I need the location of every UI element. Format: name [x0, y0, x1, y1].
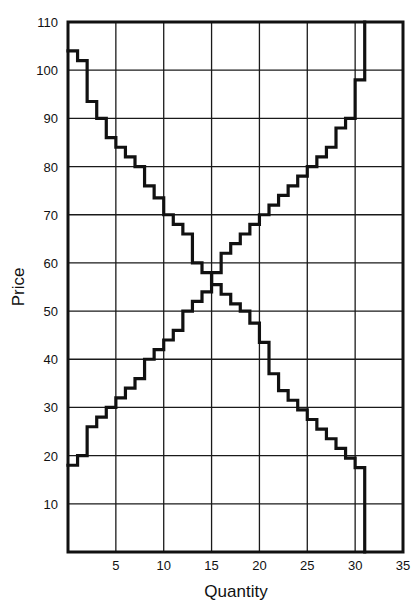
y-tick-label: 10: [44, 497, 58, 512]
y-axis-ticks: 102030405060708090100110: [36, 15, 58, 512]
plot-frame: [68, 22, 403, 552]
y-tick-label: 90: [44, 111, 58, 126]
x-tick-label: 35: [396, 558, 410, 573]
x-tick-label: 10: [156, 558, 170, 573]
y-tick-label: 100: [36, 63, 58, 78]
y-tick-label: 80: [44, 160, 58, 175]
x-tick-label: 5: [112, 558, 119, 573]
x-tick-label: 30: [348, 558, 362, 573]
grid-lines: [68, 22, 403, 552]
y-tick-label: 70: [44, 208, 58, 223]
x-tick-label: 25: [300, 558, 314, 573]
x-tick-label: 15: [204, 558, 218, 573]
y-tick-label: 60: [44, 256, 58, 271]
supply-curve: [68, 22, 365, 465]
x-tick-label: 20: [252, 558, 266, 573]
y-tick-label: 30: [44, 400, 58, 415]
x-axis-ticks: 5101520253035: [112, 558, 410, 573]
supply-demand-chart: 102030405060708090100110 5101520253035 Q…: [0, 0, 420, 611]
y-tick-label: 110: [37, 15, 58, 30]
x-axis-label: Quantity: [204, 582, 268, 601]
y-tick-label: 50: [44, 304, 58, 319]
y-tick-label: 40: [44, 352, 58, 367]
demand-curve: [68, 51, 365, 552]
y-axis-label: Price: [9, 268, 28, 307]
y-tick-label: 20: [44, 449, 58, 464]
